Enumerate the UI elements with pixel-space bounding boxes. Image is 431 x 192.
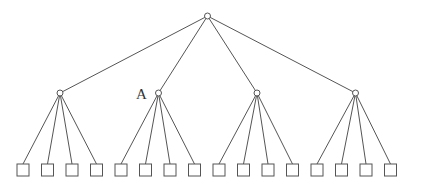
leaf-node xyxy=(17,164,29,176)
tree-edge xyxy=(60,93,97,164)
tree-edge xyxy=(146,93,159,164)
tree-edge xyxy=(342,93,356,164)
tree-edge xyxy=(208,16,258,93)
tree-edge xyxy=(121,93,159,164)
leaf-node xyxy=(287,164,299,176)
tree-edge xyxy=(60,16,208,93)
leaf-node xyxy=(164,164,176,176)
internal-node-a xyxy=(156,90,162,96)
tree-diagram: A xyxy=(0,0,431,192)
tree-edge xyxy=(23,93,60,164)
node-label-a: A xyxy=(136,86,147,102)
leaf-node xyxy=(42,164,54,176)
tree-nodes xyxy=(57,13,359,96)
tree-edges xyxy=(23,16,391,164)
leaf-node xyxy=(262,164,274,176)
leaf-node xyxy=(360,164,372,176)
leaf-node xyxy=(140,164,152,176)
leaf-node xyxy=(238,164,250,176)
tree-edge xyxy=(244,93,258,164)
leaf-node xyxy=(385,164,397,176)
internal-node xyxy=(57,90,63,96)
leaf-node xyxy=(213,164,225,176)
tree-edge xyxy=(317,93,356,164)
leaf-node xyxy=(311,164,323,176)
leaf-node xyxy=(189,164,201,176)
leaf-node xyxy=(336,164,348,176)
tree-leaves xyxy=(17,164,397,176)
internal-node xyxy=(254,90,260,96)
tree-edge xyxy=(219,93,257,164)
tree-edge xyxy=(208,16,356,93)
leaf-node xyxy=(66,164,78,176)
internal-node xyxy=(353,90,359,96)
tree-edge xyxy=(159,16,208,93)
tree-edge xyxy=(48,93,61,164)
leaf-node xyxy=(91,164,103,176)
root-node xyxy=(205,13,211,19)
leaf-node xyxy=(115,164,127,176)
